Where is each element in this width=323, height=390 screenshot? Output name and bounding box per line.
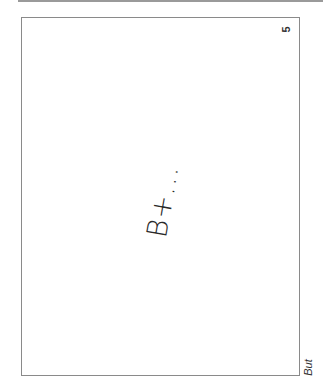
top-rule xyxy=(18,0,323,2)
continuation-text: But xyxy=(303,359,314,376)
page-number: 5 xyxy=(281,26,292,32)
